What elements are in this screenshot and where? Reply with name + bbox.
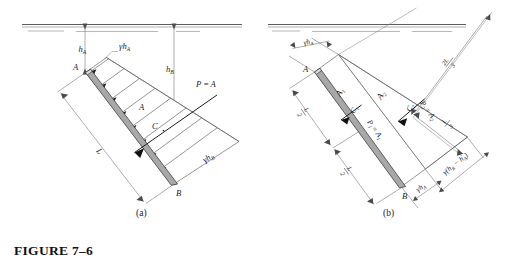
label-area-a: A [138, 102, 145, 112]
panel-label-b: (b) [383, 208, 394, 218]
panel-b-drawing: 2L 3 L 3 [268, 8, 492, 208]
label-hB: hB [166, 64, 174, 75]
label-point-A-b: A [302, 64, 309, 74]
water-surface-b [268, 25, 466, 32]
water-surface-a [22, 25, 242, 32]
label-point-B-a: B [176, 188, 182, 198]
centroid-dot-a [163, 130, 165, 132]
label-point-B-b: B [402, 191, 408, 201]
figure-caption: FIGURE 7–6 [14, 243, 93, 259]
label-hA: hA [79, 44, 87, 55]
panel-label-a: (a) [136, 208, 147, 218]
figure-root: hA hB [0, 0, 523, 271]
label-top-gamma-hA: γhA [303, 36, 315, 48]
label-L-over-2-lower: L 2 [338, 164, 355, 180]
label-gamma-hA: γhA [119, 41, 131, 52]
svg-text:2: 2 [296, 111, 304, 118]
label-length-L: L [94, 145, 106, 156]
figure-drawing: hA hB [0, 0, 523, 271]
label-centroid-C: C [152, 121, 158, 131]
label-bottom-gamma-hA: γhA [414, 180, 428, 194]
label-resultant-a: P =A [195, 79, 217, 89]
svg-text:2: 2 [339, 170, 347, 177]
panel-a-drawing: hA hB [22, 24, 242, 204]
label-point-A-a: A [72, 62, 79, 72]
